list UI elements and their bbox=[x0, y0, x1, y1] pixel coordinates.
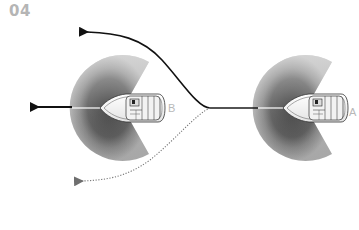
boat-a-label: A bbox=[349, 106, 357, 118]
collision-avoidance-diagram: B A bbox=[0, 0, 359, 230]
boat-b-label: B bbox=[168, 102, 175, 114]
